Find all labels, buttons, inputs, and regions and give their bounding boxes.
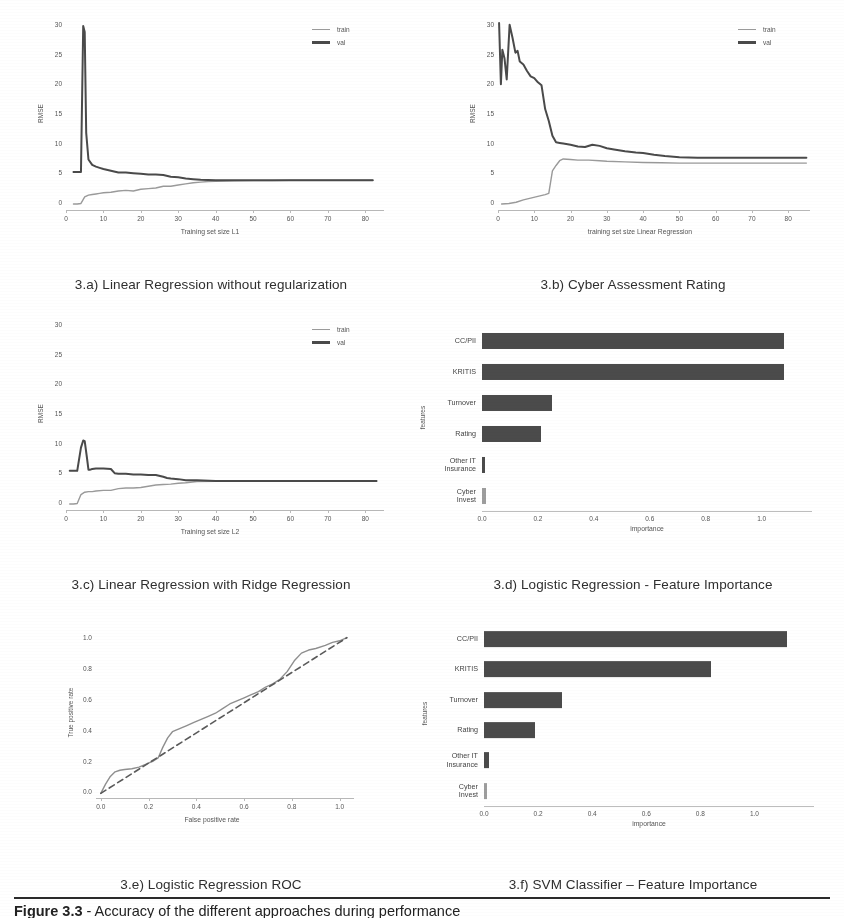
x-tick-label: 1.0: [740, 810, 768, 817]
bar: [482, 426, 541, 442]
legend-label-val: val: [337, 339, 345, 346]
legend-swatch-val-icon: [312, 341, 330, 344]
bar-row: CC/PII: [482, 326, 812, 357]
bar: [484, 753, 489, 769]
bar-category-label: Other IT Insurance: [444, 457, 476, 473]
figure-caption-label: Figure 3.3: [14, 903, 83, 918]
bar-category-label: Other IT Insurance: [446, 752, 478, 768]
bar-row: Cyber Invest: [484, 776, 814, 806]
legend-item-train: train: [312, 26, 350, 33]
y-axis-title: features: [419, 387, 426, 447]
legend-label-train: train: [337, 26, 350, 33]
bar-row: Rating: [482, 419, 812, 450]
chart-legend: trainval: [738, 26, 776, 52]
bar-row: Other IT Insurance: [484, 745, 814, 775]
chart-3a-linear-regression-no-regularization: 05101520253001020304050607080Training se…: [30, 14, 390, 244]
figure-caption-3e: 3.e) Logistic Regression ROC: [0, 877, 422, 892]
bar: [482, 333, 784, 349]
bar: [484, 662, 711, 678]
legend-label-val: val: [763, 39, 771, 46]
bar: [482, 395, 552, 411]
figure-cell-3b: 05101520253001020304050607080training se…: [422, 0, 844, 300]
chart-curves: [62, 624, 362, 832]
figure-caption-3f: 3.f) SVM Classifier – Feature Importance: [422, 877, 844, 892]
x-axis-line: [482, 511, 812, 512]
bar-row: Rating: [484, 715, 814, 745]
bar-category-label: KRITIS: [453, 368, 476, 376]
bar-category-label: Cyber Invest: [459, 783, 478, 799]
bar-row: Other IT Insurance: [482, 449, 812, 480]
chart-3f-svm-classifier-feature-importance: CC/PIIKRITISTurnoverRatingOther IT Insur…: [484, 620, 814, 832]
caption-divider: [14, 897, 830, 899]
chart-3d-logistic-regression-feature-importance: CC/PIIKRITISTurnoverRatingOther IT Insur…: [482, 322, 812, 537]
x-tick-label: 0.8: [686, 810, 714, 817]
series-train: [73, 180, 372, 204]
x-axis-title: importance: [482, 525, 812, 532]
bar-category-label: CC/PII: [457, 635, 478, 643]
x-tick-label: 0.6: [636, 515, 664, 522]
bar-row: Cyber Invest: [482, 480, 812, 511]
legend-swatch-train-icon: [312, 329, 330, 331]
legend-item-val: val: [738, 39, 776, 46]
x-tick-label: 0.4: [578, 810, 606, 817]
bar: [482, 457, 485, 473]
figure-main-caption: Figure 3.3 - Accuracy of the different a…: [14, 903, 830, 918]
bar-row: Turnover: [484, 685, 814, 715]
bar-category-label: Turnover: [448, 399, 477, 407]
bar-row: Turnover: [482, 388, 812, 419]
x-tick-label: 0.8: [692, 515, 720, 522]
bar-category-label: Rating: [457, 726, 478, 734]
legend-label-train: train: [337, 326, 350, 333]
x-axis-title: importance: [484, 820, 814, 827]
y-axis-title: features: [421, 684, 428, 744]
bar-category-label: Turnover: [450, 696, 479, 704]
series-chance: [101, 638, 347, 794]
bar-category-label: KRITIS: [455, 665, 478, 673]
legend-item-val: val: [312, 39, 350, 46]
legend-label-val: val: [337, 39, 345, 46]
x-tick-label: 0.2: [524, 515, 552, 522]
x-tick-label: 0.6: [632, 810, 660, 817]
figure-cell-3e: 0.00.20.40.60.81.00.00.20.40.60.81.0Fals…: [0, 600, 422, 900]
legend-item-train: train: [312, 326, 350, 333]
legend-swatch-val-icon: [312, 41, 330, 44]
bar: [484, 783, 487, 799]
bar: [484, 722, 535, 738]
bar: [484, 692, 562, 708]
series-train: [502, 159, 807, 204]
chart-legend: trainval: [312, 26, 350, 52]
x-tick-label: 1.0: [748, 515, 776, 522]
bar-category-label: Rating: [455, 430, 476, 438]
chart-legend: trainval: [312, 326, 350, 352]
figure-cell-3a: 05101520253001020304050607080Training se…: [0, 0, 422, 300]
series-val: [70, 441, 377, 481]
figure-caption-3b: 3.b) Cyber Assessment Rating: [422, 277, 844, 292]
x-tick-label: 0.4: [580, 515, 608, 522]
legend-swatch-train-icon: [738, 29, 756, 31]
x-axis-line: [484, 806, 814, 807]
figure-cell-3c: 05101520253001020304050607080Training se…: [0, 300, 422, 600]
bar: [482, 364, 784, 380]
chart-3c-ridge-regression: 05101520253001020304050607080Training se…: [30, 314, 390, 544]
figure-page: 05101520253001020304050607080Training se…: [0, 0, 844, 918]
x-tick-label: 0.0: [468, 515, 496, 522]
x-tick-label: 0.0: [470, 810, 498, 817]
figure-cell-3f: CC/PIIKRITISTurnoverRatingOther IT Insur…: [422, 600, 844, 900]
chart-3e-logistic-regression-roc: 0.00.20.40.60.81.00.00.20.40.60.81.0Fals…: [62, 624, 362, 832]
figure-caption-3a: 3.a) Linear Regression without regulariz…: [0, 277, 422, 292]
bar: [482, 488, 486, 504]
figure-cell-3d: CC/PIIKRITISTurnoverRatingOther IT Insur…: [422, 300, 844, 600]
legend-item-val: val: [312, 339, 350, 346]
figure-caption-3d: 3.d) Logistic Regression - Feature Impor…: [422, 577, 844, 592]
bar: [484, 631, 787, 647]
bar-category-label: CC/PII: [455, 337, 476, 345]
figure-grid: 05101520253001020304050607080Training se…: [0, 0, 844, 900]
legend-label-train: train: [763, 26, 776, 33]
bar-category-label: Cyber Invest: [457, 488, 476, 504]
figure-caption-3c: 3.c) Linear Regression with Ridge Regres…: [0, 577, 422, 592]
bar-row: KRITIS: [484, 654, 814, 684]
bar-row: CC/PII: [484, 624, 814, 654]
figure-caption-text: - Accuracy of the different approaches d…: [83, 903, 461, 918]
bar-row: KRITIS: [482, 357, 812, 388]
chart-3b-cyber-assessment-rating: 05101520253001020304050607080training se…: [464, 14, 816, 244]
